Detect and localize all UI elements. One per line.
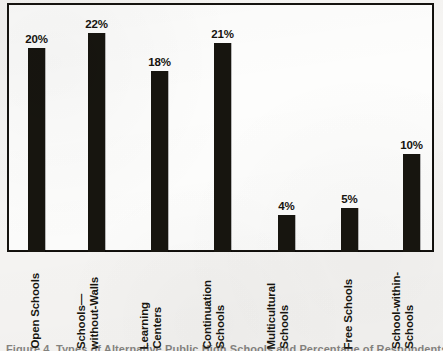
category-label-line: Schools (279, 305, 291, 349)
category-label: LearningCenters (139, 254, 167, 349)
category-label: Schools—without-Walls (76, 254, 104, 349)
category-label-line: Schools (404, 305, 416, 349)
category-label: Open Schools (30, 254, 44, 349)
category-label-line: Schools (215, 305, 227, 349)
category-label-line: Free Schools (343, 279, 355, 349)
category-label-line: without-Walls (89, 277, 101, 349)
category-label: ContinuationSchools (202, 254, 230, 349)
category-label: School-within-Schools (391, 254, 419, 349)
category-label-line: Continuation (202, 280, 214, 349)
category-label-line: Multicultural (266, 283, 278, 349)
bar-chart-figure: 20%22%18%21%4%5%10% Open SchoolsSchools—… (0, 0, 443, 351)
category-labels-layer: Open SchoolsSchools—without-WallsLearnin… (0, 252, 443, 351)
category-label: Free Schools (343, 254, 357, 349)
category-label-line: School-within- (391, 272, 403, 349)
figure-caption-text: Figure 4. Types of Alternative Public Hi… (6, 344, 443, 351)
category-label-line: Centers (152, 307, 164, 349)
category-label-line: Learning (139, 302, 151, 349)
category-label-line: Open Schools (30, 273, 42, 349)
category-label: MulticulturalSchools (266, 254, 294, 349)
plot-area-frame (7, 3, 434, 252)
category-label-line: Schools— (76, 294, 88, 349)
figure-caption-clipped: Figure 4. Types of Alternative Public Hi… (6, 344, 443, 351)
